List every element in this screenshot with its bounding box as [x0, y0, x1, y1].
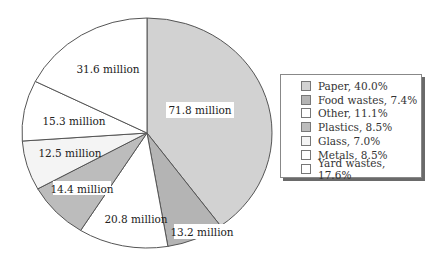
- legend-item-paper: Paper, 40.0%: [301, 79, 421, 93]
- slice-label-food-wastes: 13.2 million: [170, 226, 233, 238]
- swatch-plastics: [301, 122, 311, 132]
- slice-label-yard-wastes: 31.6 million: [76, 63, 139, 75]
- legend-item-food-wastes: Food wastes, 7.4%: [301, 93, 421, 107]
- legend-item-plastics: Plastics, 8.5%: [301, 120, 421, 134]
- swatch-yard-wastes: [301, 164, 311, 174]
- swatch-food-wastes: [301, 95, 311, 105]
- swatch-glass: [301, 136, 311, 146]
- swatch-metals: [301, 150, 311, 160]
- legend-item-yard-wastes: Yard wastes, 17.6%: [301, 162, 421, 176]
- slice-label-other: 20.8 million: [104, 213, 167, 225]
- legend-label: Food wastes, 7.4%: [318, 94, 417, 106]
- legend-label: Other, 11.1%: [318, 107, 388, 119]
- legend-item-glass: Glass, 7.0%: [301, 134, 421, 148]
- slice-label-metals: 15.3 million: [42, 115, 105, 127]
- legend-label: Yard wastes, 17.6%: [318, 157, 421, 181]
- legend-label: Glass, 7.0%: [318, 135, 380, 147]
- legend-label: Plastics, 8.5%: [318, 121, 392, 133]
- slice-label-glass: 12.5 million: [38, 147, 101, 159]
- swatch-other: [301, 108, 311, 118]
- slice-label-plastics: 14.4 million: [50, 183, 113, 195]
- swatch-paper: [301, 81, 311, 91]
- chart-legend: Paper, 40.0% Food wastes, 7.4% Other, 11…: [280, 74, 422, 178]
- legend-label: Paper, 40.0%: [318, 80, 388, 92]
- slice-label-paper: 71.8 million: [168, 104, 231, 116]
- legend-item-other: Other, 11.1%: [301, 107, 421, 121]
